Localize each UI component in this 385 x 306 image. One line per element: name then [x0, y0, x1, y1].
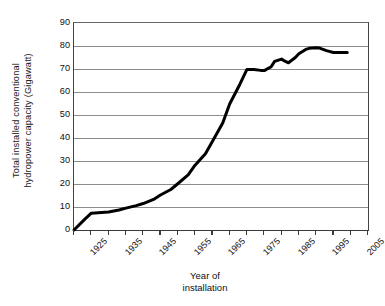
- x-tick-1945: [142, 230, 143, 235]
- plot-area: [73, 22, 369, 231]
- x-tick-1925: [73, 230, 74, 235]
- x-tick-1965: [211, 230, 212, 235]
- x-tick-label-1975: 1975: [261, 236, 282, 257]
- y-tick-label-20: 20: [44, 179, 70, 188]
- x-tick-2010: [367, 230, 368, 235]
- x-tick-label-1925: 1925: [88, 236, 109, 257]
- y-tick-label-70: 70: [44, 64, 70, 73]
- y-tick-label-60: 60: [44, 87, 70, 96]
- x-tick-label-1995: 1995: [330, 236, 351, 257]
- x-axis-title-line2: installation: [140, 282, 270, 294]
- x-tick-1990: [298, 230, 299, 235]
- data-line: [74, 48, 347, 230]
- y-tick-label-0: 0: [44, 225, 70, 234]
- x-tick-1960: [194, 230, 195, 235]
- x-tick-label-1985: 1985: [295, 236, 316, 257]
- x-tick-1975: [246, 230, 247, 235]
- y-tick-label-90: 90: [44, 18, 70, 27]
- y-tick-label-50: 50: [44, 110, 70, 119]
- x-tick-label-1965: 1965: [226, 236, 247, 257]
- x-tick-1930: [90, 230, 91, 235]
- x-tick-2000: [332, 230, 333, 235]
- x-tick-label-2005: 2005: [365, 236, 385, 257]
- x-tick-1980: [263, 230, 264, 235]
- y-axis-tick-labels: 0102030405060708090: [42, 0, 70, 306]
- y-axis-title-text: Total installed conventional hydropower …: [11, 53, 34, 188]
- y-axis-title: Total installed conventional hydropower …: [0, 0, 44, 240]
- x-axis-title-line1: Year of: [140, 270, 270, 282]
- x-axis-tick-labels: 192519351945195519651975198519952005: [73, 236, 373, 272]
- y-axis-title-line2: hydropower capacity (Gigawatt): [22, 53, 34, 188]
- x-tick-1985: [281, 230, 282, 235]
- x-tick-1935: [108, 230, 109, 235]
- series-line-hydropower-capacity: [74, 23, 368, 230]
- x-tick-1970: [229, 230, 230, 235]
- x-axis-title: Year of installation: [140, 270, 270, 294]
- x-tick-label-1945: 1945: [157, 236, 178, 257]
- y-tick-label-10: 10: [44, 202, 70, 211]
- x-tick-1950: [159, 230, 160, 235]
- x-tick-1955: [177, 230, 178, 235]
- x-tick-1940: [125, 230, 126, 235]
- x-tick-label-1955: 1955: [192, 236, 213, 257]
- chart-figure: Total installed conventional hydropower …: [0, 0, 385, 306]
- y-axis-title-line1: Total installed conventional: [11, 53, 23, 188]
- y-tick-label-40: 40: [44, 133, 70, 142]
- y-tick-label-30: 30: [44, 156, 70, 165]
- y-tick-label-80: 80: [44, 41, 70, 50]
- x-tick-2005: [350, 230, 351, 235]
- x-tick-1995: [315, 230, 316, 235]
- x-tick-label-1935: 1935: [122, 236, 143, 257]
